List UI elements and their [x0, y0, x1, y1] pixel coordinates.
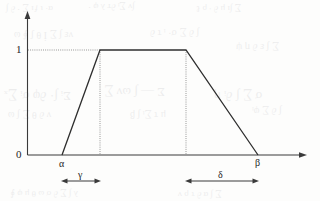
x-marker-label-beta: β [255, 158, 260, 168]
membership-function-curve [62, 50, 258, 155]
y-axis-arrow-icon [25, 11, 31, 19]
delta-right-arrow-icon [253, 179, 260, 184]
gamma-left-arrow-icon [61, 179, 68, 184]
measure-label-delta: δ [218, 170, 223, 180]
delta-left-arrow-icon [185, 179, 192, 184]
x-marker-label-alpha: α [59, 159, 64, 169]
x-axis-arrow-icon [299, 152, 307, 158]
y-tick-label-zero: 0 [16, 149, 22, 160]
y-tick-label-one: 1 [16, 44, 22, 55]
gamma-right-arrow-icon [95, 179, 102, 184]
trapezoidal-membership-function-figure: α· ι ƒı ∑ ⋅ ∂ ∫ ∫ν ∑ᵢ ∂т λ φ ⋅ ∑ ∫ı μ ∂ … [0, 0, 320, 201]
plot-canvas [0, 0, 320, 201]
measure-label-gamma: γ [78, 170, 82, 180]
